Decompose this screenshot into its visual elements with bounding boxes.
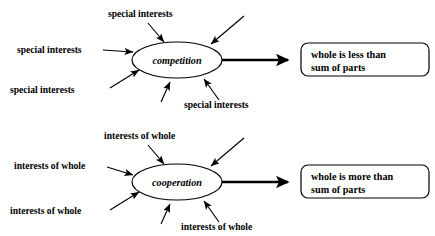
outcome-text-line-2: sum of parts (311, 184, 365, 195)
input-arrow-top-left (148, 23, 164, 42)
outcome-text-line-1: whole is less than (311, 49, 386, 60)
input-arrow-lower-left (110, 192, 139, 210)
input-arrow-left (103, 50, 133, 52)
input-label-lower-left: interests of whole (10, 205, 82, 216)
input-label-bottom-right: special interests (184, 99, 249, 110)
input-arrow-top-right (211, 16, 244, 44)
input-arrow-bottom-right (204, 201, 219, 222)
process-label-competition: competition (152, 55, 202, 66)
outcome-text-line-2: sum of parts (311, 62, 365, 73)
input-arrow-bottom-right (204, 79, 219, 100)
input-arrow-bottom-center (161, 204, 170, 224)
diagram-root: special interests special interests spec… (0, 0, 435, 236)
input-label-lower-left: special interests (10, 84, 75, 95)
process-label-cooperation: cooperation (152, 177, 202, 188)
input-label-bottom-right: interests of whole (181, 221, 253, 232)
input-arrow-top-right (211, 138, 244, 166)
diagram-canvas: special interests special interests spec… (0, 0, 435, 236)
input-arrow-left (107, 167, 133, 175)
input-arrow-bottom-center (161, 82, 170, 102)
input-label-left: special interests (17, 44, 82, 55)
outcome-text-line-1: whole is more than (311, 171, 393, 182)
input-arrow-lower-left (110, 70, 139, 88)
input-label-top: special interests (108, 8, 173, 19)
input-label-left: interests of whole (14, 160, 86, 171)
input-arrow-top-left (148, 145, 164, 164)
input-label-top: interests of whole (104, 130, 176, 141)
